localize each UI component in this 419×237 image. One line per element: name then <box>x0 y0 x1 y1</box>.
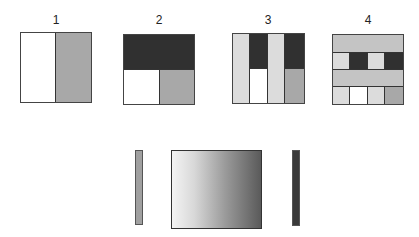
dark-swatch-bar <box>292 150 300 226</box>
panel-1-right-gray <box>55 32 92 103</box>
panel-4-row1-band <box>332 34 404 53</box>
panel-4 <box>332 34 404 105</box>
panel-3-col4-dark <box>284 33 305 69</box>
gradient-box <box>171 150 262 229</box>
panel-3-col1-light <box>232 33 250 104</box>
panel-2-bottom-gray <box>159 69 195 105</box>
panel-3-col2-dark <box>249 33 268 69</box>
panel-4-row2-c1-light <box>332 52 350 70</box>
panel-4-row2-c4-dark <box>384 52 404 70</box>
gray-swatch-bar <box>135 150 143 225</box>
panel-4-row4-c4-gray <box>384 86 404 105</box>
panel-1 <box>20 32 92 103</box>
panel-4-row4-c1-light <box>332 86 350 105</box>
panel-3 <box>232 33 305 104</box>
panel-4-row2-c3-light <box>367 52 385 70</box>
panel-label-1: 1 <box>46 14 66 26</box>
panel-4-row3-band <box>332 69 404 87</box>
panel-label-4: 4 <box>358 14 378 26</box>
panel-4-row4-c3-light <box>367 86 385 105</box>
panel-label-3: 3 <box>258 14 278 26</box>
panel-2 <box>123 34 195 105</box>
panel-2-bottom-white <box>123 69 160 105</box>
panel-1-left-white <box>20 32 56 103</box>
panel-2-top-dark <box>123 34 195 70</box>
panel-label-2: 2 <box>149 14 169 26</box>
panel-3-col3-light <box>267 33 285 104</box>
panel-4-row4-c2-white <box>349 86 368 105</box>
panel-3-col2-white <box>249 68 268 104</box>
panel-4-row2-c2-dark <box>349 52 368 70</box>
panel-3-col4-gray <box>284 68 305 104</box>
